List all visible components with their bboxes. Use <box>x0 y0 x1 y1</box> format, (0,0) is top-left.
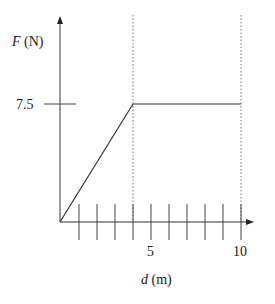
x-axis-label: d (m) <box>141 272 172 288</box>
y-axis-label: F (N) <box>11 34 44 50</box>
force-displacement-chart: F (N) 7.5 5 10 d (m) <box>0 0 275 304</box>
x-tick-label-10: 10 <box>233 244 247 259</box>
y-tick-label: 7.5 <box>16 97 34 112</box>
x-tick-label-5: 5 <box>147 244 154 259</box>
